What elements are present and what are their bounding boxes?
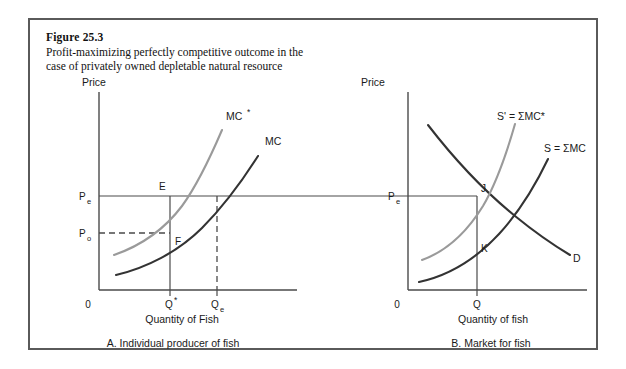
panel-a-ytick-pe-base: P (79, 191, 86, 202)
panel-b-y-axis-label: Price (361, 76, 385, 88)
panel-b-supply-star-label: S' = ΣMC* (497, 110, 545, 122)
panel-b-demand-label: D (573, 252, 581, 264)
panel-b-ytick-pe-base: P (388, 191, 395, 202)
panel-a-xtick-qstar: Q * (165, 295, 178, 310)
panel-a-mc-star-label-base: MC (226, 110, 243, 122)
panel-a-xtick-qstar-base: Q (165, 299, 173, 310)
panel-a-ytick-po-base: P (79, 228, 86, 239)
panel-a-mc-curve (116, 156, 258, 275)
panel-a-point-f: F (175, 236, 181, 247)
panel-a-ytick-pe-subscript: e (87, 197, 91, 206)
panel-a-origin-label: 0 (85, 299, 91, 310)
panel-a-individual-producer: Price Quantity of Fish 0 P e P o Q * Q e… (30, 20, 315, 352)
panel-a-point-e: E (159, 181, 166, 192)
panel-b-point-k: K (481, 243, 488, 254)
panel-b-supply-star-curve (422, 124, 515, 260)
panel-a-xtick-qe-base: Q (211, 299, 219, 310)
panel-a-ytick-pe: P e (79, 191, 91, 206)
panel-b-supply-curve (419, 159, 548, 282)
panel-a-xtick-qe-subscript: e (220, 305, 224, 314)
panel-a-mc-label: MC (265, 135, 282, 147)
panel-a-caption: A. Individual producer of fish (107, 337, 240, 349)
panel-b-x-axis-label: Quantity of fish (458, 313, 528, 325)
panel-a-ytick-po: P o (79, 228, 91, 243)
panel-b-xtick-q: Q (473, 299, 481, 310)
panel-a-mc-star-label-superscript: * (247, 107, 251, 117)
panel-a-mc-star-curve (114, 130, 222, 255)
panel-b-point-j: J (481, 183, 486, 194)
panel-b-ytick-pe-subscript: e (396, 197, 400, 206)
panel-b-market-for-fish: Price Quantity of fish 0 P e Q S' = ΣMC*… (315, 20, 600, 352)
panel-b-caption: B. Market for fish (451, 337, 531, 349)
panel-b-ytick-pe: P e (388, 191, 400, 206)
panel-a-ytick-po-subscript: o (87, 234, 91, 243)
panel-a-xtick-qe: Q e (211, 299, 224, 314)
panel-a-xtick-qstar-superscript: * (174, 295, 178, 305)
panel-a-x-axis-label: Quantity of Fish (145, 313, 219, 325)
panel-b-origin-label: 0 (394, 299, 400, 310)
figure-frame: Figure 25.3 Profit-maximizing perfectly … (28, 18, 598, 350)
panel-a-mc-star-label: MC * (226, 107, 251, 122)
panel-a-y-axis-label: Price (82, 76, 106, 88)
panel-b-supply-label: S = ΣMC (544, 142, 586, 154)
